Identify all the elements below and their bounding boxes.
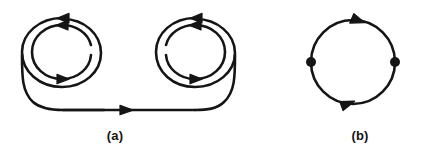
panel-a-group <box>22 13 235 114</box>
panel-b-circle <box>311 20 395 104</box>
panel-b-label: (b) <box>351 128 368 143</box>
right-inner-loop-path <box>166 25 225 79</box>
figure-container: (a) (b) <box>0 0 433 148</box>
panel-b-vertex-right-dot <box>390 57 400 67</box>
panel-b-vertex-left-dot <box>306 57 316 67</box>
right-inner-loop-arrow-top-icon <box>189 20 201 30</box>
panel-b-group <box>306 13 400 110</box>
connector-arrow-icon <box>120 105 133 114</box>
right-inner-loop-arrow-bottom-icon <box>190 74 202 83</box>
left-inner-loop-path <box>32 25 91 79</box>
left-inner-loop-arrow-bottom-icon <box>57 74 69 83</box>
left-inner-loop-arrow-top-icon <box>56 20 68 30</box>
panel-a-label: (a) <box>107 128 124 143</box>
diagram-svg: (a) (b) <box>0 0 433 148</box>
